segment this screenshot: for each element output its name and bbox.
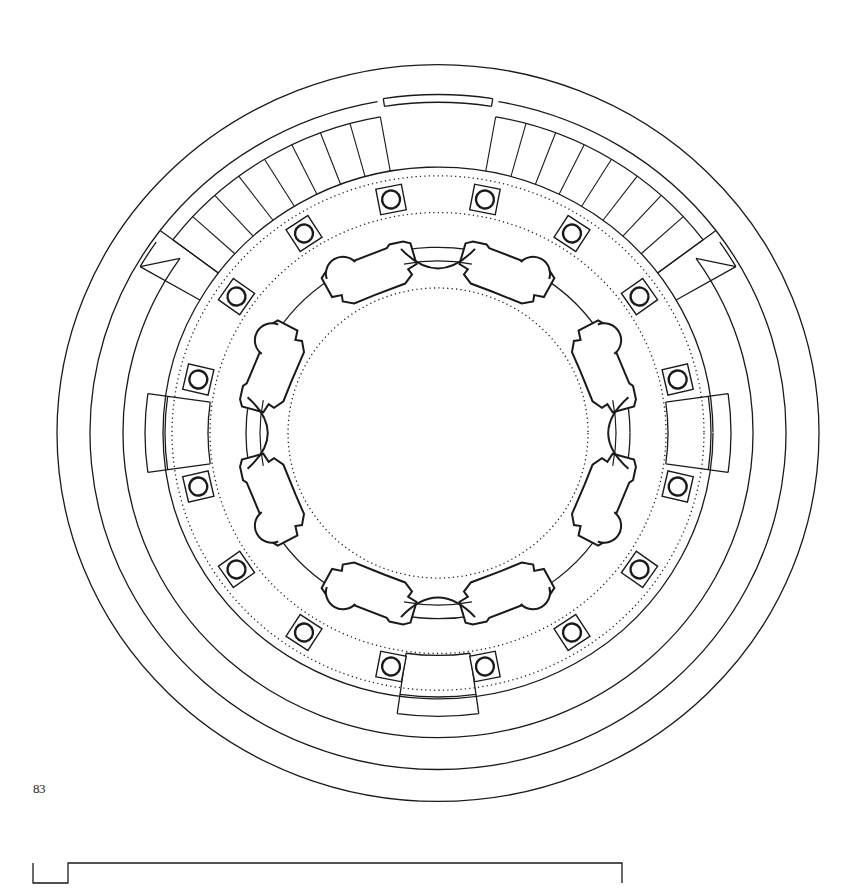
column-plinth bbox=[662, 364, 693, 395]
stair-tread bbox=[603, 176, 637, 220]
entrance-threshold bbox=[383, 95, 493, 107]
stair-tread bbox=[641, 217, 683, 254]
stair-tread bbox=[292, 145, 317, 194]
temple-floor-plan bbox=[0, 0, 858, 830]
stair-tread bbox=[320, 133, 340, 185]
column-plinth bbox=[662, 471, 693, 502]
column-plinth bbox=[376, 651, 406, 681]
stair-tread bbox=[486, 117, 496, 171]
cella-inner-dotted bbox=[288, 288, 588, 578]
stair-outer-wall-arc bbox=[160, 102, 716, 231]
column-plinth bbox=[470, 651, 500, 681]
stair-right bbox=[486, 117, 703, 273]
wall-niches bbox=[145, 394, 731, 717]
column-plinth bbox=[376, 184, 406, 214]
colonnade-dotted-outer bbox=[172, 176, 704, 690]
left-step-return bbox=[140, 258, 200, 300]
stair-tread bbox=[511, 123, 526, 176]
column-plinth bbox=[218, 278, 254, 314]
column bbox=[183, 364, 214, 395]
column bbox=[470, 651, 500, 681]
cella-piers bbox=[240, 242, 636, 625]
column bbox=[470, 184, 500, 214]
column bbox=[376, 651, 406, 681]
column bbox=[662, 471, 693, 502]
stair-tread bbox=[658, 240, 704, 273]
stair-tread bbox=[239, 176, 273, 220]
column bbox=[218, 278, 254, 314]
niche-outline bbox=[397, 653, 479, 716]
step-corner-arcs bbox=[140, 242, 736, 266]
niche-outline bbox=[145, 394, 210, 473]
right-step-return bbox=[676, 258, 736, 300]
stair-tread bbox=[193, 217, 235, 254]
niche-west bbox=[145, 394, 210, 473]
stair-left bbox=[173, 117, 390, 273]
page-number: 83 bbox=[33, 781, 45, 797]
staircases bbox=[173, 117, 703, 273]
column-plinth bbox=[183, 471, 214, 502]
stair-tread bbox=[559, 145, 584, 194]
stair-tread bbox=[535, 133, 555, 185]
stair-tread bbox=[350, 123, 365, 176]
column-plinth bbox=[470, 184, 500, 214]
column bbox=[621, 551, 657, 587]
north-entrance-threshold bbox=[383, 95, 493, 107]
niche-south bbox=[397, 653, 479, 716]
cella-outer-ring bbox=[246, 247, 630, 618]
column bbox=[183, 471, 214, 502]
column bbox=[662, 364, 693, 395]
scale-bar-line bbox=[33, 863, 622, 883]
niche-outline bbox=[666, 394, 731, 473]
outer-wall-circle bbox=[57, 65, 819, 802]
stair-tread bbox=[380, 117, 390, 171]
column-plinth bbox=[621, 551, 657, 587]
colonnade-columns bbox=[183, 184, 694, 682]
column bbox=[376, 184, 406, 214]
ambulatory-outer-arc bbox=[123, 258, 753, 737]
colonnade-dotted-inner bbox=[210, 213, 666, 654]
scale-bar bbox=[0, 840, 858, 895]
concentric-walls bbox=[57, 65, 819, 802]
stair-tread bbox=[173, 240, 219, 273]
stair-tread bbox=[215, 195, 253, 236]
niche-east bbox=[666, 394, 731, 473]
stair-tread bbox=[265, 159, 295, 206]
column-plinth bbox=[183, 364, 214, 395]
stair-tread bbox=[623, 195, 661, 236]
stair-tread bbox=[582, 159, 612, 206]
